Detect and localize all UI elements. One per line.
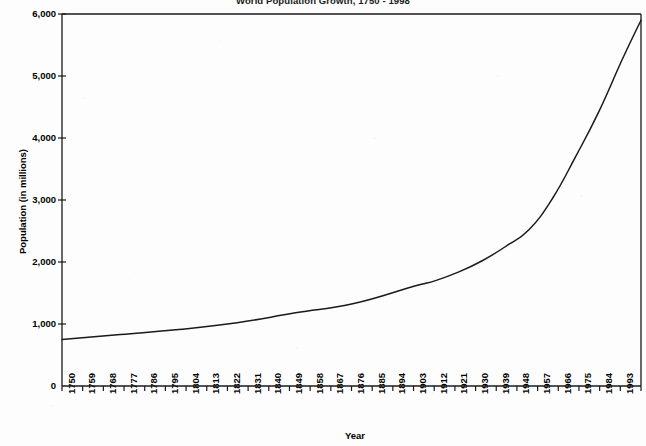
- tick-marks-group: [58, 14, 641, 391]
- x-axis-title: Year: [0, 430, 646, 441]
- x-axis-title-text: Year: [345, 430, 365, 441]
- plot-area: [0, 0, 646, 446]
- population-data-line: [62, 20, 641, 339]
- population-growth-chart: World Population Growth, 1750 - 1998 Pop…: [0, 0, 646, 446]
- axes-group: [62, 14, 641, 386]
